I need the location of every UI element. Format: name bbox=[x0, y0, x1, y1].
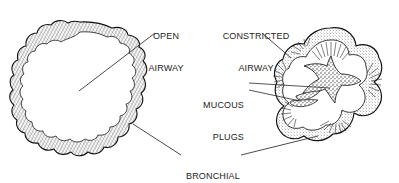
label-mucous-plugs-line1: MUCOUS bbox=[142, 100, 244, 111]
label-bronchial-mucosa: BRONCHIAL MUCOSA bbox=[186, 150, 240, 183]
label-bronchial-mucosa-line1: BRONCHIAL bbox=[186, 171, 240, 182]
label-open-airway-line1: OPEN bbox=[138, 31, 194, 42]
label-open-airway-line2: AIRWAY bbox=[138, 63, 194, 74]
label-mucous-plugs-line2: PLUGS bbox=[142, 132, 244, 143]
label-constricted-airway-line1: CONSTRICTED bbox=[216, 31, 296, 42]
label-constricted-airway-line2: AIRWAY bbox=[216, 63, 296, 74]
airway-cross-section-figure: OPEN AIRWAY CONSTRICTED AIRWAY MUCOUS PL… bbox=[0, 0, 399, 183]
